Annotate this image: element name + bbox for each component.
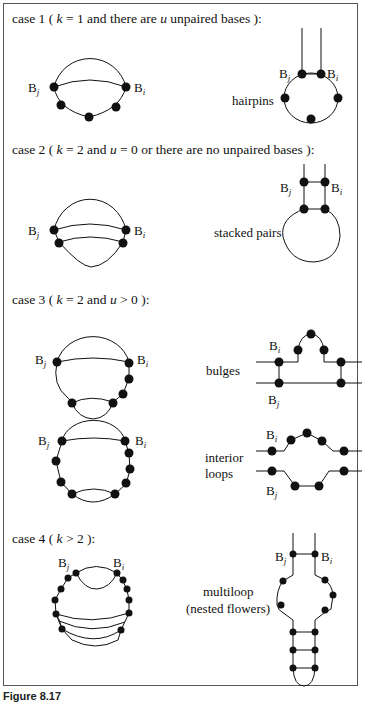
stacked-pairs-diagram xyxy=(283,164,340,262)
multiloop-diagram xyxy=(277,533,337,686)
case1-loop-diagram xyxy=(50,59,131,122)
bulge-diagram xyxy=(256,330,362,388)
multiloop-circle-diagram xyxy=(52,567,133,647)
figure-caption: Figure 8.17 xyxy=(3,690,61,702)
hairpin-diagram xyxy=(281,28,343,124)
bulge-loop-diagram xyxy=(53,337,134,419)
case2-loop-diagram xyxy=(50,199,131,267)
interior-loop-diagram xyxy=(256,429,362,491)
interior-loop-circle-diagram xyxy=(52,420,135,502)
